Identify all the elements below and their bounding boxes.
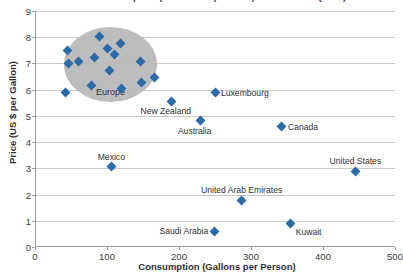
y-axis-line bbox=[35, 11, 36, 247]
plot-area: 0123456789 0100200300400500 Europe New Z… bbox=[35, 11, 395, 247]
gridline-y-5 bbox=[35, 116, 395, 117]
x-tick-mark-200 bbox=[179, 247, 180, 250]
chart-title: Gasoline Consumption per Person (Gallons… bbox=[0, 0, 397, 3]
gridline-y-3 bbox=[35, 168, 395, 169]
y-tick-mark-6 bbox=[32, 90, 35, 91]
y-tick-label-2: 2 bbox=[26, 189, 31, 200]
y-tick-mark-2 bbox=[32, 195, 35, 196]
x-tick-label-0: 0 bbox=[32, 251, 37, 262]
x-axis-line bbox=[35, 246, 395, 247]
data-point[interactable] bbox=[106, 162, 116, 172]
y-tick-label-5: 5 bbox=[26, 110, 31, 121]
y-tick-mark-8 bbox=[32, 37, 35, 38]
y-tick-label-7: 7 bbox=[26, 58, 31, 69]
data-point[interactable] bbox=[167, 96, 177, 106]
gridline-y-1 bbox=[35, 221, 395, 222]
y-tick-label-1: 1 bbox=[26, 215, 31, 226]
x-tick-label-100: 100 bbox=[99, 251, 115, 262]
data-point-label: Mexico bbox=[98, 152, 125, 162]
y-tick-label-0: 0 bbox=[26, 242, 31, 253]
x-tick-mark-300 bbox=[251, 247, 252, 250]
data-point[interactable] bbox=[209, 226, 219, 236]
y-tick-mark-9 bbox=[32, 11, 35, 12]
y-tick-mark-3 bbox=[32, 168, 35, 169]
y-tick-mark-5 bbox=[32, 116, 35, 117]
y-tick-label-9: 9 bbox=[26, 6, 31, 17]
y-tick-mark-7 bbox=[32, 63, 35, 64]
data-point-label: New Zealand bbox=[140, 106, 191, 116]
data-point-label: United States bbox=[330, 156, 382, 166]
x-tick-mark-100 bbox=[107, 247, 108, 250]
x-tick-mark-0 bbox=[35, 247, 36, 250]
y-tick-mark-4 bbox=[32, 142, 35, 143]
data-point-label: Canada bbox=[288, 122, 318, 132]
x-tick-label-400: 400 bbox=[315, 251, 331, 262]
x-tick-label-300: 300 bbox=[243, 251, 259, 262]
data-point-label: Australia bbox=[178, 126, 211, 136]
x-tick-mark-400 bbox=[323, 247, 324, 250]
y-tick-mark-1 bbox=[32, 221, 35, 222]
y-tick-label-6: 6 bbox=[26, 84, 31, 95]
data-point-label: United Arab Emirates bbox=[201, 185, 282, 195]
data-point[interactable] bbox=[196, 116, 206, 126]
x-tick-mark-500 bbox=[395, 247, 396, 250]
y-tick-label-3: 3 bbox=[26, 163, 31, 174]
data-point[interactable] bbox=[237, 195, 247, 205]
x-tick-label-200: 200 bbox=[171, 251, 187, 262]
x-axis-title: Consumption (Gallons per Person) bbox=[37, 261, 397, 272]
data-point-label: Luxembourg bbox=[221, 88, 269, 98]
gridline-y-9 bbox=[35, 11, 395, 12]
y-tick-label-4: 4 bbox=[26, 137, 31, 148]
y-tick-label-8: 8 bbox=[26, 32, 31, 43]
data-point[interactable] bbox=[277, 122, 287, 132]
data-point-label: Saudi Arabia bbox=[160, 226, 209, 236]
x-tick-label-500: 500 bbox=[387, 251, 403, 262]
data-point-label: Kuwait bbox=[296, 227, 322, 237]
gridline-y-4 bbox=[35, 142, 395, 143]
y-axis-title: Price (US $ per Gallon) bbox=[7, 43, 18, 183]
